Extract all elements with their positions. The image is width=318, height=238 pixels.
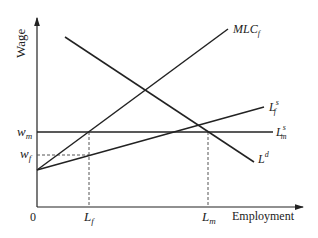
curve-l-demand [65,37,254,162]
tick-L-f: Lf [83,209,95,226]
origin-label: 0 [30,210,36,224]
label-l-f-supply: Lsf [268,98,279,116]
diagram-canvas: Wage Employment 0 wm wf Lf Lm MLCf Lsf L… [0,0,318,238]
tick-L-m: Lm [201,209,216,226]
label-mlc-f: MLCf [232,22,262,38]
curve-mlc-f [37,29,228,170]
tick-w-m: wm [17,124,33,141]
y-axis-label: Wage [13,29,28,58]
label-l-m-supply: Lsm [275,123,287,141]
tick-w-f: wf [20,146,33,163]
label-l-demand: Ld [257,150,270,166]
x-axis-label: Employment [232,209,295,223]
curve-l-f-supply [37,107,264,170]
economics-diagram: Wage Employment 0 wm wf Lf Lm MLCf Lsf L… [0,0,318,238]
